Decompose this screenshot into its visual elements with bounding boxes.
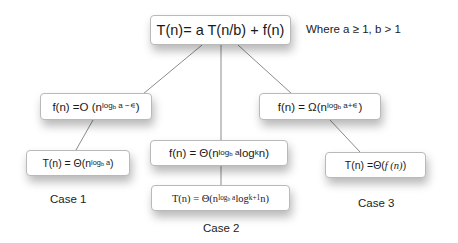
case1-result-suffix: )	[110, 157, 114, 169]
case1-result-prefix: T(n) = Θ(n	[42, 157, 91, 169]
case2-condition-box: f(n) = Θ(nlogb a logk n)	[150, 140, 288, 166]
case3-condition-box: f(n) = Ω(nlogb a+∊ )	[259, 93, 381, 120]
case1-condition-prefix: f(n) =O (n	[52, 101, 102, 113]
case1-result-box: T(n) = Θ(nlogb a )	[26, 150, 130, 176]
case2-condition-suffix: n)	[259, 147, 269, 159]
case2-result-log: log	[235, 193, 248, 204]
case3-result-func: f (n)	[385, 160, 403, 171]
case3-result-prefix: T(n) =Θ(	[345, 159, 385, 171]
case2-result-suffix: n)	[260, 193, 269, 204]
case1-result-exponent: logb a	[91, 163, 110, 164]
case1-condition-exponent: logb a −∊	[102, 106, 136, 107]
case3-condition-suffix: )	[358, 101, 362, 113]
root-recurrence-box: T(n)= a T(n/b) + f(n)	[150, 15, 291, 45]
case3-condition-exponent: logb a+∊	[327, 106, 359, 107]
case1-condition-box: f(n) =O (nlogb a −∊ )	[40, 93, 152, 120]
case2-condition-exponent: logb a	[219, 153, 240, 154]
case1-condition-suffix: )	[136, 101, 140, 113]
case3-label: Case 3	[358, 197, 394, 209]
case2-condition-log: log	[239, 147, 254, 159]
root-condition-note: Where a ≥ 1, b > 1	[306, 23, 401, 35]
root-formula: T(n)= a T(n/b) + f(n)	[157, 22, 285, 38]
case2-result-box: T(n) = Θ(nlogb a logk+1 n)	[151, 185, 290, 211]
case3-condition-prefix: f(n) = Ω(n	[278, 101, 327, 113]
case3-result-box: T(n) =Θ(f (n))	[325, 152, 426, 178]
case2-result-exponent: logb a	[218, 198, 235, 199]
case3-result-suffix: )	[403, 159, 407, 171]
case2-label: Case 2	[203, 222, 239, 234]
case2-result-prefix: T(n) = Θ(n	[172, 193, 218, 204]
case1-label: Case 1	[50, 193, 86, 205]
case2-condition-prefix: f(n) = Θ(n	[169, 147, 219, 159]
